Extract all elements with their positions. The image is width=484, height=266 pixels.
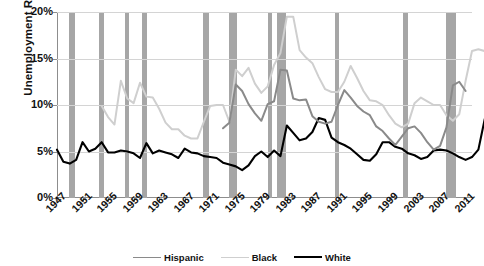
y-tick-label: 20% xyxy=(9,5,53,17)
plot-area xyxy=(57,12,472,198)
y-tick-label: 5% xyxy=(9,145,53,157)
legend-item-hispanic[interactable]: Hispanic xyxy=(133,253,204,263)
legend-swatch-white xyxy=(294,256,322,258)
y-tick-label: 10% xyxy=(9,98,53,110)
legend-label: Hispanic xyxy=(164,253,204,263)
series-layer xyxy=(57,12,472,198)
legend-swatch-black xyxy=(221,257,249,258)
legend-item-white[interactable]: White xyxy=(294,253,351,263)
legend-swatch-hispanic xyxy=(133,257,161,258)
series-line-white xyxy=(57,117,484,170)
legend-item-black[interactable]: Black xyxy=(221,253,277,263)
legend-label: Black xyxy=(252,253,277,263)
y-tick-label: 15% xyxy=(9,52,53,64)
chart-legend: HispanicBlackWhite xyxy=(0,253,484,263)
series-line-black xyxy=(102,17,484,139)
y-axis-ticks: 0%5%10%15%20% xyxy=(0,12,53,198)
legend-label: White xyxy=(325,253,351,263)
unemployment-rates-chart: Unemployment Rates 0%5%10%15%20% Hispani… xyxy=(0,0,484,266)
